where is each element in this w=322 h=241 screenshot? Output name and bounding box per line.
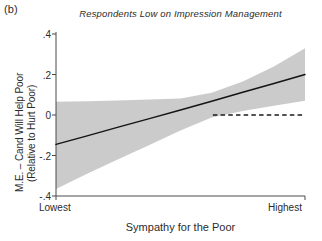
y-tick-label-4: -.4 <box>28 191 51 202</box>
figure-panel-b: (b) Respondents Low on Impression Manage… <box>0 0 322 241</box>
x-tick-label-lowest: Lowest <box>39 202 71 213</box>
y-axis-label-line1: M.E. – Cand Will Help Poor <box>14 73 25 192</box>
chart-title: Respondents Low on Impression Management <box>56 8 305 19</box>
y-tick-label-3: -.2 <box>28 150 51 161</box>
y-axis-label-line2: (Relative to Hurt Poor) <box>26 85 37 182</box>
x-axis-label: Sympathy for the Poor <box>56 221 305 233</box>
y-axis-ticks <box>52 34 56 196</box>
y-tick-label-1: .2 <box>28 69 51 80</box>
y-tick-label-0: .4 <box>28 29 51 40</box>
panel-label: (b) <box>4 3 18 15</box>
y-tick-label-2: 0 <box>28 110 51 121</box>
confidence-band-group <box>56 48 305 189</box>
x-axis-ticks <box>56 196 305 200</box>
confidence-interval-band <box>56 48 305 189</box>
x-tick-label-highest: Highest <box>268 202 302 213</box>
